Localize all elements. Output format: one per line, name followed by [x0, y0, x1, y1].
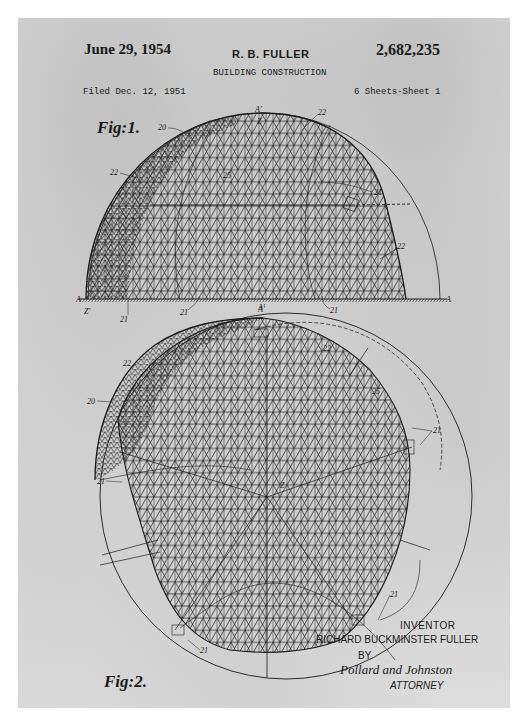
- by-label: BY: [358, 650, 371, 661]
- svg-text:20: 20: [158, 123, 166, 132]
- svg-text:21: 21: [200, 646, 208, 655]
- svg-text:25: 25: [372, 387, 380, 396]
- svg-text:Z: Z: [280, 481, 285, 490]
- figure-2-label: Fig:2.: [104, 672, 147, 692]
- svg-text:25: 25: [223, 171, 231, 180]
- svg-text:22: 22: [123, 359, 131, 368]
- svg-text:A': A': [257, 305, 265, 314]
- svg-text:22: 22: [397, 242, 405, 251]
- svg-text:21: 21: [180, 308, 188, 317]
- figure-1-label: Fig:1.: [97, 118, 140, 138]
- svg-text:21: 21: [374, 188, 382, 197]
- inventor-name: RICHARD BUCKMINSTER FULLER: [316, 634, 478, 645]
- svg-text:A: A: [75, 295, 81, 304]
- svg-text:A': A': [254, 105, 262, 114]
- inventor-label: INVENTOR: [400, 620, 456, 631]
- patent-drawing: A A A' Z A' Z' 20 22 22 22 25 21 21 21 2…: [0, 0, 526, 726]
- svg-text:Z': Z': [84, 307, 90, 316]
- svg-text:20: 20: [87, 397, 95, 406]
- svg-text:22: 22: [110, 168, 118, 177]
- svg-text:21: 21: [433, 426, 441, 435]
- svg-text:21: 21: [97, 477, 105, 486]
- svg-text:22: 22: [323, 344, 331, 353]
- svg-text:Z: Z: [257, 117, 262, 126]
- svg-text:21: 21: [120, 315, 128, 324]
- attorney-signature: Pollard and Johnston: [340, 662, 452, 678]
- svg-text:21: 21: [330, 306, 338, 315]
- svg-text:A: A: [445, 295, 451, 304]
- attorney-label: ATTORNEY: [390, 680, 444, 691]
- svg-text:21: 21: [390, 590, 398, 599]
- svg-text:22: 22: [318, 108, 326, 117]
